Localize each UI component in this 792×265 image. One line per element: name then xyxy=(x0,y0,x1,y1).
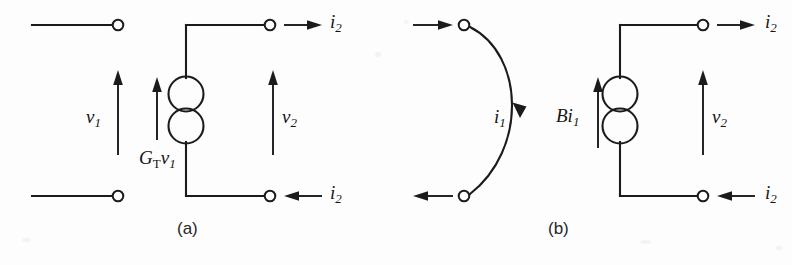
panel-a-source-arrowhead xyxy=(152,77,162,92)
panel-b-terminal-bottom-left[interactable] xyxy=(459,191,470,202)
panel-a-i2-top-label: i2 xyxy=(330,12,342,31)
panel-a-i2-top-arrow xyxy=(284,20,322,30)
circuit-figure: v1 v2 i2 i2 GTv1 (a) i1 Bi1 v2 i2 i2 (b) xyxy=(0,0,792,265)
panel-b-source-current-arrow xyxy=(593,77,603,148)
panel-a-terminal-bottom-left[interactable] xyxy=(113,191,124,202)
panel-b-source-circle-upper xyxy=(603,77,638,112)
panel-a-v2-arrow xyxy=(268,70,278,155)
panel-a-terminal-top-left[interactable] xyxy=(113,20,124,31)
panel-b-i2-bottom-label: i2 xyxy=(765,183,777,202)
panel-b-group xyxy=(413,20,755,202)
panel-b-i1-label: i1 xyxy=(494,107,506,126)
panel-b-i2-top-arrowhead xyxy=(740,20,755,30)
panel-b-i2-top-arrow xyxy=(717,20,755,30)
panel-a-i2-top-arrowhead xyxy=(307,20,322,30)
panel-a-source-current-arrow xyxy=(152,77,162,140)
panel-b-i1-arrowhead xyxy=(513,103,527,119)
panel-a-v2-arrowhead xyxy=(268,70,278,85)
panel-b-i1-out-arrow xyxy=(413,191,453,201)
panel-b-source-circle-lower xyxy=(603,109,638,144)
panel-b-i1-in-arrow xyxy=(413,20,453,30)
panel-a-i2-bottom-arrow xyxy=(284,191,322,201)
panel-b-source-label: Bi1 xyxy=(556,106,579,125)
panel-b-i2-top-label: i2 xyxy=(765,12,777,31)
panel-a-source-label: GTv1 xyxy=(139,148,176,167)
panel-b-terminal-top-left[interactable] xyxy=(459,20,470,31)
panel-b-i2-bottom-arrowhead xyxy=(717,191,732,201)
panel-b-v2-arrowhead xyxy=(698,70,708,85)
panel-a-caption: (a) xyxy=(177,220,198,237)
panel-a-v1-arrowhead xyxy=(113,70,123,85)
panel-a-source-circle-upper xyxy=(169,77,204,112)
panel-a-v2-label: v2 xyxy=(282,107,297,126)
panel-b-i1-out-arrowhead xyxy=(413,191,428,201)
panel-a-terminal-bottom-right[interactable] xyxy=(265,191,276,202)
panel-a-v1-arrow xyxy=(113,70,123,155)
panel-a-group xyxy=(32,20,322,202)
panel-b-i2-bottom-arrow xyxy=(717,191,755,201)
panel-b-v2-arrow xyxy=(698,70,708,155)
panel-a-v1-label: v1 xyxy=(86,107,101,126)
panel-b-terminal-bottom-right[interactable] xyxy=(698,191,709,202)
circuit-schematic-svg xyxy=(0,0,792,265)
panel-b-caption: (b) xyxy=(548,220,569,237)
panel-b-terminal-top-right[interactable] xyxy=(698,20,709,31)
panel-a-source-circle-lower xyxy=(169,109,204,144)
panel-b-source-arrowhead xyxy=(593,77,603,92)
panel-b-v2-label: v2 xyxy=(712,107,727,126)
panel-b-i1-in-arrowhead xyxy=(438,20,453,30)
panel-a-i2-bottom-arrowhead xyxy=(284,191,299,201)
panel-a-i2-bottom-label: i2 xyxy=(330,183,342,202)
panel-a-terminal-top-right[interactable] xyxy=(265,20,276,31)
